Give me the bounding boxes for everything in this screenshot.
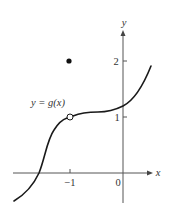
y-axis-label: y: [121, 17, 127, 28]
graph-of-g: −1 0 1 2 x y y = g(x): [0, 0, 170, 214]
x-tick-label-0: 0: [115, 177, 120, 188]
x-axis-label: x: [155, 167, 161, 178]
filled-point-marker: [66, 58, 71, 63]
x-tick-label-neg1: −1: [64, 177, 75, 188]
y-axis-arrow-icon: [121, 30, 126, 36]
y-tick-label-2: 2: [113, 56, 118, 67]
function-label: y = g(x): [30, 97, 65, 109]
x-axis-arrow-icon: [147, 171, 153, 176]
open-point-marker: [67, 114, 73, 120]
curve-g: [14, 66, 151, 201]
y-tick-label-1: 1: [114, 112, 119, 123]
